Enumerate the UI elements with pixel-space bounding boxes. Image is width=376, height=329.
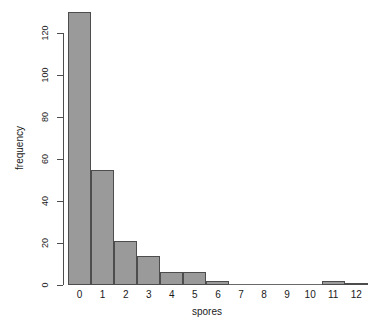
x-axis-tick-label: 11 [322,289,345,301]
x-axis-tick-label: 5 [183,289,206,301]
bar [253,284,276,285]
x-axis-tick-label: 10 [299,289,322,301]
y-axis-tick [57,201,63,202]
bar [299,284,322,285]
bar-cell [299,8,322,285]
bar-cell [253,8,276,285]
y-axis-tick-label-text: 120 [40,24,50,42]
y-axis-tick [57,243,63,244]
y-axis-tick-label-text: 0 [40,276,50,294]
bar-cell [206,8,229,285]
y-axis-tick-label: 80 [36,112,54,122]
x-axis-tick-label: 9 [276,289,299,301]
bar [276,284,299,285]
bar-cell [345,8,368,285]
x-axis-title-text: spores [154,306,222,317]
bar-series [68,8,368,285]
y-axis-title: frequency [15,108,25,188]
y-axis-tick-label: 120 [36,28,54,38]
bar-cell [229,8,252,285]
histogram-chart: frequency 020406080100120 01234567891011… [0,0,376,329]
bar [68,12,91,285]
bar-cell [160,8,183,285]
y-axis-tick [57,117,63,118]
plot-area [68,8,368,285]
bar-cell [183,8,206,285]
bar [183,272,206,285]
x-axis-tick-label: 0 [68,289,91,301]
x-axis-tick-labels: 0123456789101112 [68,289,368,301]
y-axis-line [63,33,64,285]
bar-cell [91,8,114,285]
y-axis-tick-label: 60 [36,154,54,164]
y-axis-tick-label-text: 40 [40,192,50,210]
x-axis-tick-label: 2 [114,289,137,301]
bar-cell [322,8,345,285]
x-axis-tick-label: 1 [91,289,114,301]
y-axis-tick-label: 0 [36,280,54,290]
x-axis-tick-label: 8 [253,289,276,301]
y-axis-tick-label: 40 [36,196,54,206]
y-axis-tick-label: 100 [36,70,54,80]
bar-cell [68,8,91,285]
y-axis-tick-label: 20 [36,238,54,248]
x-axis-title: spores [0,306,376,317]
y-axis-tick [57,285,63,286]
bar [114,241,137,285]
bar-cell [276,8,299,285]
x-axis-tick-label: 12 [345,289,368,301]
y-axis-tick-label-text: 100 [40,66,50,84]
bar [229,284,252,285]
bar-cell [114,8,137,285]
x-axis-tick-label: 3 [137,289,160,301]
x-axis-tick-label: 6 [206,289,229,301]
y-axis-tick [57,75,63,76]
y-axis-tick-label-text: 60 [40,150,50,168]
y-axis-tick-label-text: 80 [40,108,50,126]
bar-cell [137,8,160,285]
bar [322,281,345,285]
y-axis-tick [57,33,63,34]
x-axis-tick-label: 7 [229,289,252,301]
bar [137,256,160,285]
bar [160,272,183,285]
y-axis-tick [57,159,63,160]
bar [345,283,368,285]
bar [206,281,229,285]
x-axis-tick-label: 4 [160,289,183,301]
y-axis-tick-label-text: 20 [40,234,50,252]
bar [91,170,114,285]
